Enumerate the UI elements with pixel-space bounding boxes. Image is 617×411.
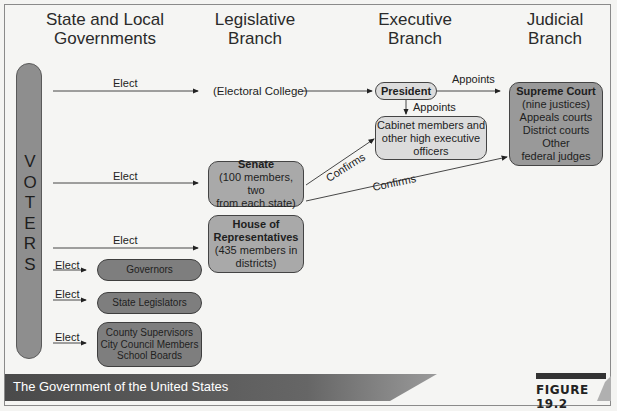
footer-band <box>0 0 617 411</box>
figure-caption: The Government of the United States <box>13 379 228 394</box>
figure-number: FIGURE 19.2 <box>536 383 617 411</box>
figure-label-bar <box>536 373 606 379</box>
